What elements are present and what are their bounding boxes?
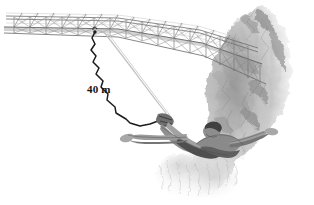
illustration-canvas: 40 m xyxy=(0,0,314,205)
cord-length-label: 40 m xyxy=(87,84,111,95)
bungee-jump-illustration xyxy=(0,0,314,205)
